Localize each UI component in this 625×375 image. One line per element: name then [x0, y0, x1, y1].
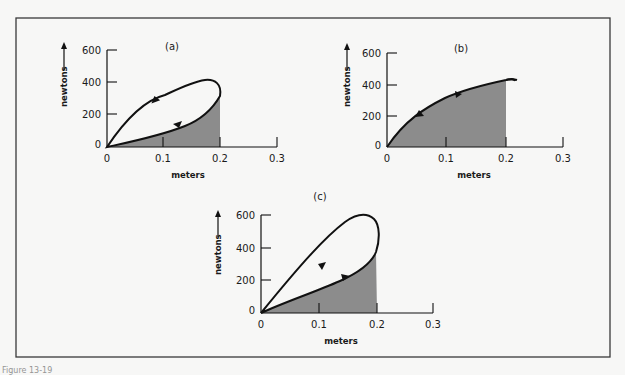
y-tick-label: 0	[375, 140, 381, 151]
x-tick-label: 0.1	[155, 153, 171, 164]
x-tick-label: 0.2	[369, 319, 385, 330]
x-tick-label: 0.2	[498, 153, 514, 164]
x-tick-label: 0.3	[269, 153, 285, 164]
y-tick-label: 0	[95, 139, 101, 150]
x-tick-label: 0.1	[311, 319, 327, 330]
y-tick-label: 600	[362, 48, 381, 59]
y-tick-label: 400	[362, 80, 381, 91]
x-tick-label: 0.3	[555, 153, 571, 164]
figure-canvas: 600 400 200 0 0 0.1 0.2 0.3 (a) meters n…	[0, 0, 625, 375]
up-arrow-icon	[61, 42, 67, 70]
y-tick-label: 400	[236, 243, 255, 254]
y-tick-label: 600	[236, 210, 255, 221]
y-tick-label: 400	[82, 77, 101, 88]
panel-label-b: (b)	[454, 43, 468, 54]
x-axis-title-a: meters	[171, 170, 205, 180]
panel-a: 600 400 200 0 0 0.1 0.2 0.3 (a) meters n…	[59, 41, 285, 180]
x-tick-label: 0.2	[212, 153, 228, 164]
y-tick-label: 200	[82, 109, 101, 120]
x-tick-label: 0	[384, 153, 390, 164]
x-axis-title-c: meters	[324, 336, 358, 346]
x-tick-label: 0	[258, 319, 264, 330]
arrow-down-left-icon	[318, 262, 326, 270]
y-axis-title-b: newtons	[342, 66, 352, 107]
panel-b: 600 400 200 0 0 0.1 0.2 0.3 (b) meters n…	[342, 43, 571, 180]
y-tick-label: 0	[249, 305, 255, 316]
y-tick-label: 200	[362, 111, 381, 122]
x-tick-label: 0	[104, 153, 110, 164]
panel-label-a: (a)	[165, 41, 179, 52]
y-tick-label: 600	[82, 45, 101, 56]
panel-c: 600 400 200 0 0 0.1 0.2 0.3 (c) meters n…	[213, 191, 441, 346]
up-arrow-icon	[344, 43, 350, 70]
up-arrow-icon	[215, 210, 221, 237]
curve-extension-b	[506, 79, 517, 80]
y-tick-label: 200	[236, 275, 255, 286]
figure-caption: Figure 13-19	[2, 366, 52, 375]
x-tick-label: 0.1	[438, 153, 454, 164]
y-axis-title-c: newtons	[213, 234, 223, 275]
y-axis-title-a: newtons	[59, 66, 69, 107]
x-tick-label: 0.3	[425, 319, 441, 330]
panel-label-c: (c)	[313, 191, 326, 202]
shaded-area-b	[387, 80, 506, 147]
x-axis-title-b: meters	[457, 170, 491, 180]
